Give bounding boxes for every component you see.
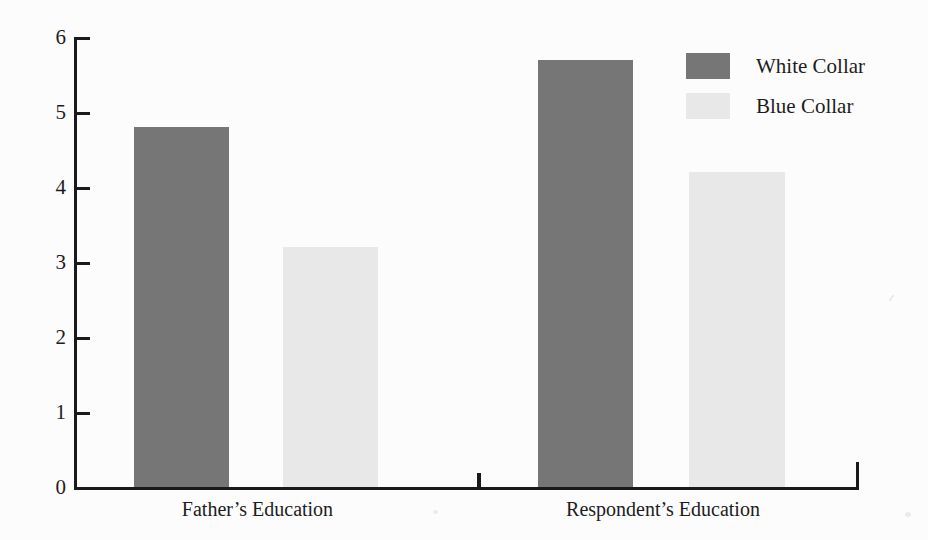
x-axis-line <box>74 487 859 490</box>
legend-swatch-white-collar <box>686 53 730 79</box>
y-tick-3 <box>77 262 90 265</box>
x-axis-end-cap <box>856 462 859 490</box>
chart-legend: White Collar Blue Collar <box>686 46 865 126</box>
scan-speck <box>433 510 438 514</box>
legend-label-white-collar: White Collar <box>756 56 865 77</box>
y-tick-2 <box>77 337 90 340</box>
y-axis-label-2: 2 <box>40 327 66 348</box>
bar-chart: 6 5 4 3 2 1 0 Father’s Education Respond… <box>0 0 928 540</box>
x-axis-group-separator-tick <box>477 473 481 488</box>
bar-respondents-education-white-collar <box>538 60 633 488</box>
y-axis-label-6: 6 <box>40 27 66 48</box>
y-tick-4 <box>77 187 90 190</box>
y-tick-1 <box>77 412 90 415</box>
legend-item-blue-collar: Blue Collar <box>686 86 865 126</box>
legend-swatch-blue-collar <box>686 93 730 119</box>
bar-fathers-education-blue-collar <box>283 247 378 487</box>
y-tick-6 <box>77 37 90 40</box>
y-axis-label-0: 0 <box>40 477 66 498</box>
x-axis-category-label-respondents-education: Respondent’s Education <box>528 497 798 521</box>
y-tick-5 <box>77 112 90 115</box>
y-axis-label-1: 1 <box>40 402 66 423</box>
y-axis-label-4: 4 <box>40 177 66 198</box>
legend-item-white-collar: White Collar <box>686 46 865 86</box>
y-axis-label-3: 3 <box>40 252 66 273</box>
scan-speck <box>889 295 895 302</box>
legend-label-blue-collar: Blue Collar <box>756 96 853 117</box>
y-axis-label-5: 5 <box>40 102 66 123</box>
bar-respondents-education-blue-collar <box>689 172 785 487</box>
scan-speck <box>905 512 911 517</box>
bar-fathers-education-white-collar <box>134 127 229 487</box>
x-axis-category-label-fathers-education: Father’s Education <box>135 497 380 521</box>
